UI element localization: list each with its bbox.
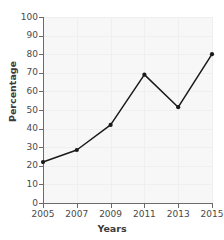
data-point-marker (142, 73, 146, 77)
data-point-marker (210, 52, 214, 56)
series-line (43, 54, 212, 162)
data-point-marker (75, 148, 79, 152)
data-point-marker (176, 105, 180, 109)
data-point-marker (41, 160, 45, 164)
line-series (0, 0, 224, 240)
y-axis-title: Percentage (7, 57, 18, 127)
chart-figure: 0102030405060708090100 20052007200920112… (0, 0, 224, 240)
x-axis-title: Years (0, 223, 224, 234)
data-point-marker (109, 123, 113, 127)
